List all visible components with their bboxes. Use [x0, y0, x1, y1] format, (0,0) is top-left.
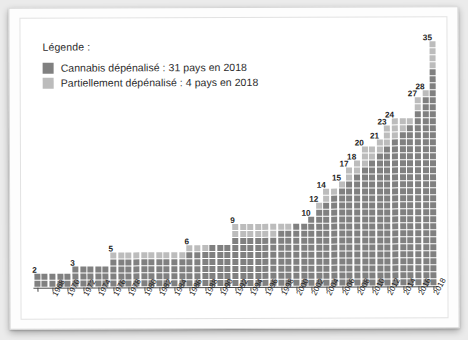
waffle-cell-full — [400, 265, 406, 271]
waffle-cell-full — [384, 153, 390, 159]
waffle-cell-full — [346, 203, 352, 209]
waffle-cell-full — [324, 266, 330, 272]
waffle-cell-full — [156, 273, 162, 279]
waffle-cell-full — [392, 174, 398, 180]
waffle-cell-full — [263, 266, 269, 272]
waffle-cell-full — [270, 245, 276, 251]
column-value-label: 15 — [332, 174, 341, 182]
waffle-cell-full — [202, 266, 208, 272]
waffle-cell-full — [430, 160, 436, 166]
waffle-cell-full — [278, 238, 284, 244]
waffle-column: 15 — [339, 181, 345, 286]
waffle-cell-full — [430, 83, 436, 89]
waffle-cell-full — [362, 216, 368, 222]
waffle-cell-full — [407, 146, 413, 152]
waffle-cell-full — [347, 259, 353, 265]
waffle-cell-full — [225, 252, 231, 258]
waffle-cell-full — [415, 118, 421, 124]
waffle-cell-full — [385, 237, 391, 243]
waffle-cell-full — [392, 244, 398, 250]
waffle-cell-full — [309, 252, 315, 258]
waffle-cell-full — [347, 266, 353, 272]
waffle-cell-full — [430, 216, 436, 222]
waffle-cell-full — [422, 97, 428, 103]
waffle-cell-full — [400, 251, 406, 257]
waffle-cell-full — [415, 132, 421, 138]
column-value-label: 2 — [32, 267, 37, 275]
waffle-cell-full — [240, 259, 246, 265]
waffle-cell-full — [415, 167, 421, 173]
waffle-cell-full — [362, 244, 368, 250]
waffle-cell-full — [415, 265, 421, 271]
waffle-cell-full — [339, 196, 345, 202]
waffle-cell-full — [431, 265, 437, 271]
waffle-cell-full — [301, 266, 307, 272]
waffle-column: 14 — [324, 188, 330, 286]
waffle-cell-full — [225, 259, 231, 265]
waffle-cell-full — [339, 203, 345, 209]
waffle-cell-full — [316, 217, 322, 223]
column-value-label: 21 — [370, 132, 379, 140]
waffle-column: 20 — [361, 145, 368, 285]
waffle-cell-full — [347, 224, 353, 230]
waffle-cell-full — [362, 209, 368, 215]
waffle-column — [369, 145, 376, 285]
waffle-cell-full — [331, 210, 337, 216]
waffle-cell-full — [194, 266, 200, 272]
waffle-cell-full — [217, 252, 223, 258]
waffle-cell-full — [377, 244, 383, 250]
waffle-cell-full — [217, 273, 223, 279]
waffle-cell-full — [377, 202, 383, 208]
waffle-cell-full — [430, 118, 436, 124]
waffle-cell-full — [384, 181, 390, 187]
waffle-cell-partial — [118, 252, 124, 258]
waffle-cell-full — [400, 230, 406, 236]
waffle-cell-partial — [202, 245, 208, 251]
waffle-cell-full — [293, 224, 299, 230]
waffle-cell-partial — [384, 132, 390, 138]
waffle-cell-full — [316, 231, 322, 237]
waffle-cell-full — [187, 266, 193, 272]
waffle-cell-full — [430, 209, 436, 215]
waffle-cell-full — [248, 245, 254, 251]
waffle-cell-full — [400, 223, 406, 229]
waffle-cell-full — [118, 259, 124, 265]
waffle-cell-full — [423, 237, 429, 243]
waffle-cell-full — [407, 202, 413, 208]
waffle-cell-full — [407, 195, 413, 201]
waffle-cell-full — [370, 258, 376, 264]
waffle-cell-full — [126, 266, 132, 272]
waffle-cell-full — [423, 202, 429, 208]
waffle-cell-partial — [133, 252, 139, 258]
waffle-cell-full — [362, 188, 368, 194]
waffle-cell-full — [225, 266, 231, 272]
waffle-cell-full — [400, 167, 406, 173]
waffle-cell-full — [422, 125, 428, 131]
waffle-cell-full — [430, 69, 436, 75]
waffle-cell-full — [362, 181, 368, 187]
waffle-cell-full — [407, 139, 413, 145]
waffle-cell-full — [308, 224, 314, 230]
waffle-cell-full — [423, 209, 429, 215]
waffle-cell-full — [354, 203, 360, 209]
waffle-cell-full — [430, 90, 436, 96]
waffle-cell-full — [339, 252, 345, 258]
waffle-cell-full — [422, 146, 428, 152]
waffle-cell-full — [369, 195, 375, 201]
waffle-column: 27 — [415, 96, 422, 285]
waffle-cell-full — [384, 174, 390, 180]
waffle-cell-full — [370, 251, 376, 257]
waffle-cell-full — [392, 216, 398, 222]
waffle-column — [331, 188, 337, 286]
waffle-cell-partial — [430, 62, 436, 68]
waffle-cell-full — [346, 182, 352, 188]
waffle-cell-full — [270, 252, 276, 258]
x-axis: 1968197019721974197619781980198219841986… — [33, 286, 437, 290]
waffle-cell-partial — [392, 125, 398, 131]
waffle-cell-full — [316, 266, 322, 272]
waffle-cell-partial — [392, 132, 398, 138]
waffle-cell-full — [309, 245, 315, 251]
waffle-cell-full — [377, 167, 383, 173]
waffle-cell-full — [423, 181, 429, 187]
waffle-cell-full — [407, 125, 413, 131]
